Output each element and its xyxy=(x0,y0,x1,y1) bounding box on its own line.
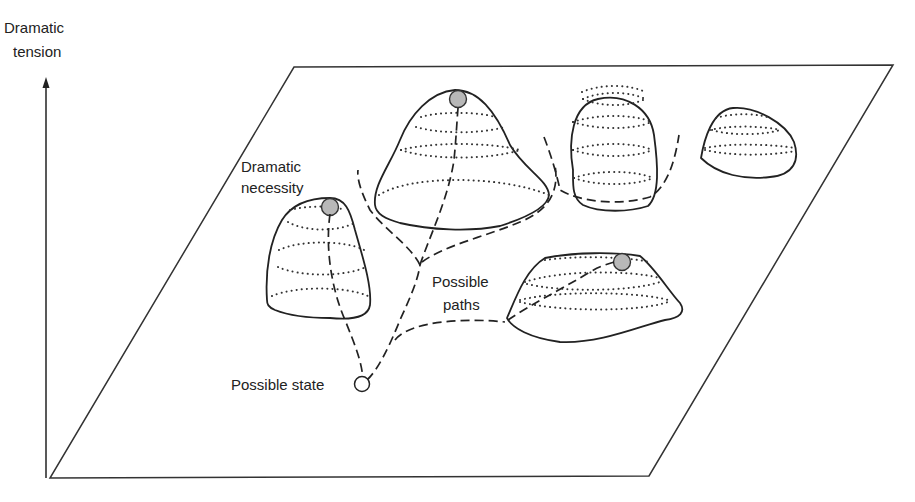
peak-marker-lower-right xyxy=(614,254,631,271)
label-dramatic-necessity-line1: Dramatic xyxy=(241,158,302,175)
label-possible-paths-line1: Possible xyxy=(432,273,489,290)
axis-arrow-icon xyxy=(43,77,50,88)
axis-label-line2: tension xyxy=(13,43,61,60)
dramatic-tension-landscape-diagram: Dramatic tension xyxy=(0,0,915,502)
label-possible-paths-line2: paths xyxy=(443,296,480,313)
tension-axis xyxy=(43,77,50,478)
possible-state-marker xyxy=(355,377,370,392)
label-possible-state: Possible state xyxy=(231,376,324,393)
label-dramatic-necessity-line2: necessity xyxy=(241,179,304,196)
peak-marker-dramatic-necessity xyxy=(322,199,339,216)
peak-marker-center-tall xyxy=(450,91,467,108)
axis-label-line1: Dramatic xyxy=(4,19,65,36)
